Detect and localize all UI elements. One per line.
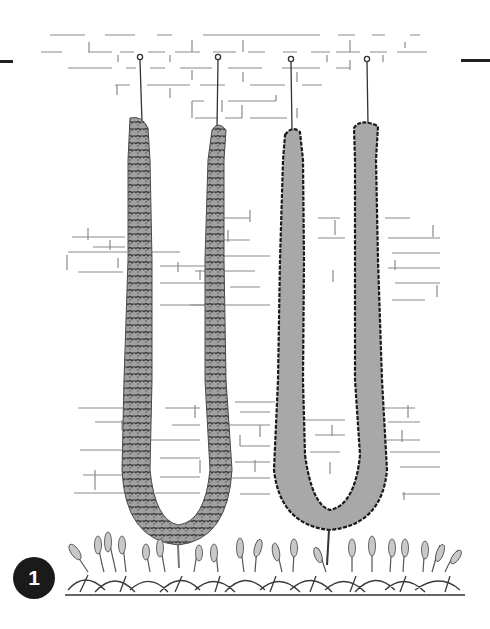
hook-2	[215, 54, 220, 59]
topiary-illustration	[0, 0, 490, 629]
stem	[178, 545, 179, 568]
step-number-badge: 1	[13, 557, 55, 599]
hooks-and-wires	[137, 54, 369, 131]
leafy-ivy-u-frame	[122, 117, 232, 568]
brick-wall-middle	[67, 210, 440, 305]
solid-silhouette-u-frame	[274, 122, 387, 565]
hook-1	[137, 54, 142, 59]
hook-4	[364, 56, 369, 61]
hook-3	[288, 56, 293, 61]
stem	[327, 530, 329, 565]
brick-wall-top	[41, 35, 427, 118]
flowering-plant-bed	[65, 532, 465, 595]
